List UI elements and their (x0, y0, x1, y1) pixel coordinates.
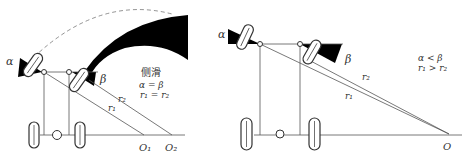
differential-circle (53, 131, 62, 140)
caption-equation-2: r₁ > r₂ (418, 63, 447, 73)
kingpin-joint-left (258, 42, 263, 47)
kingpin-joint-right (298, 42, 303, 47)
differential-circle (276, 130, 284, 138)
rear-left-wheel (29, 122, 39, 148)
sideslip-caption: 侧滑 (141, 66, 161, 78)
caption-equation-2: r₁ = r₂ (140, 90, 169, 100)
kingpin-joint-left (42, 70, 47, 75)
o-label: O (443, 141, 451, 152)
steering-diagram: α β r₂ r₁ O₁ O₂ 侧滑 α = β r₁ = r₂ (0, 0, 465, 161)
rear-left-wheel (241, 118, 252, 150)
caption-equation-1: α = β (139, 80, 164, 90)
right-panel-normal-steering: α β r₂ r₁ O α < β r₁ > r₂ (218, 23, 462, 152)
alpha-label: α (218, 28, 226, 41)
left-panel-sideslip: α β r₂ r₁ O₁ O₂ 侧滑 α = β r₁ = r₂ (6, 10, 188, 153)
r2-label: r₂ (362, 72, 370, 82)
beta-label: β (99, 73, 106, 86)
r1-label: r₁ (345, 91, 353, 101)
caption-equation-1: α < β (418, 53, 443, 63)
o1-label: O₁ (139, 142, 151, 153)
beta-label: β (344, 53, 351, 66)
r2-label: r₂ (118, 94, 126, 104)
rear-right-wheel (75, 122, 85, 148)
slip-sweep-shape (84, 15, 188, 76)
alpha-label: α (6, 55, 14, 68)
kingpin-joint-right (67, 70, 72, 75)
rear-right-wheel (309, 118, 320, 150)
o2-label: O₂ (165, 142, 177, 153)
r1-label: r₁ (108, 103, 116, 113)
